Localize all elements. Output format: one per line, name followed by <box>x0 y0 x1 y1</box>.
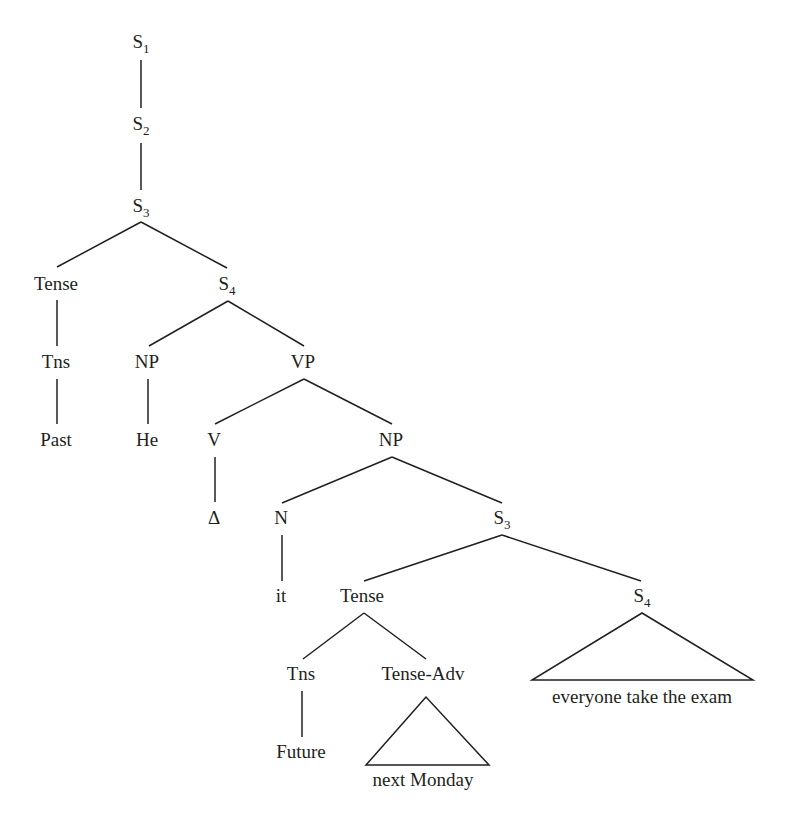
node-past: Past <box>40 429 72 450</box>
node-tense2: Tense <box>340 585 384 606</box>
node-vp: VP <box>291 351 315 372</box>
node-subscript: 3 <box>143 205 150 220</box>
node-subscript: 4 <box>644 595 651 610</box>
tree-edges <box>57 60 641 737</box>
node-s4b: S4 <box>633 585 651 610</box>
node-subscript: 3 <box>504 517 511 532</box>
node-delta: Δ <box>208 507 220 528</box>
edge-tense2-tenseadv <box>364 613 426 659</box>
node-future: Future <box>276 741 326 762</box>
node-v: V <box>207 429 221 450</box>
node-n: N <box>274 507 288 528</box>
node-tenseadv: Tense-Adv <box>381 663 465 684</box>
edge-np2-s3b <box>392 457 502 503</box>
edge-s3a-tense1 <box>57 222 141 267</box>
edge-s3b-s4b <box>502 535 641 581</box>
node-tns2: Tns <box>287 663 316 684</box>
edge-vp-np2 <box>304 379 392 424</box>
node-np1: NP <box>135 351 159 372</box>
node-np2: NP <box>379 429 403 450</box>
triangle-label-s4b: everyone take the exam <box>552 686 732 707</box>
node-s3b: S3 <box>493 507 510 532</box>
syntax-tree-diagram: next Mondayeveryone take the examS1S2S3T… <box>0 0 786 818</box>
node-s3a: S3 <box>132 195 149 220</box>
triangle-tenseadv <box>366 697 489 765</box>
node-tns1: Tns <box>42 351 71 372</box>
node-he: He <box>136 429 158 450</box>
node-s4a: S4 <box>218 273 236 298</box>
edge-s4a-np1 <box>149 301 228 346</box>
edge-vp-v <box>215 379 304 424</box>
node-s1: S1 <box>132 31 149 56</box>
node-subscript: 2 <box>143 123 150 138</box>
node-it: it <box>276 585 287 606</box>
edge-tense2-tns2 <box>303 613 364 659</box>
edge-s3b-tense2 <box>364 535 502 581</box>
edge-s4a-vp <box>228 301 304 346</box>
triangle-label-tenseadv: next Monday <box>373 769 474 790</box>
edge-s3a-s4a <box>141 222 227 268</box>
node-subscript: 1 <box>143 41 150 56</box>
node-s2: S2 <box>132 113 149 138</box>
edge-np2-n <box>282 457 392 503</box>
node-subscript: 4 <box>229 283 236 298</box>
tree-labels: next Mondayeveryone take the examS1S2S3T… <box>34 31 732 790</box>
node-tense1: Tense <box>34 273 78 294</box>
triangle-s4b <box>532 613 753 680</box>
